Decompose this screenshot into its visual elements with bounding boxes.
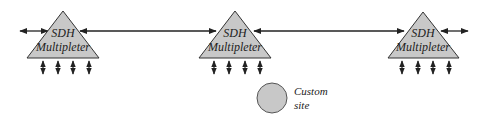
mux-right-label-1: SDH [411,26,436,40]
mux-right: SDH Multipleter [388,12,459,74]
mux-middle: SDH Multipleter [199,11,271,74]
custom-site-label-1: Custom [294,85,328,97]
custom-site-label-2: site [294,99,309,111]
mux-middle-label-1: SDH [223,26,248,40]
mux-left-label-2: Multipleter [35,40,90,54]
tributary-arrows [43,61,89,74]
sdh-network-diagram: SDH Multipleter SDH Multipleter SDH Mult… [0,0,486,121]
mux-left-label-1: SDH [51,26,76,40]
tributary-arrows [214,61,260,74]
mux-middle-label-2: Multipleter [207,40,262,54]
mux-right-label-2: Multipleter [395,40,450,54]
tributary-arrows [402,61,449,74]
mux-left: SDH Multipleter [27,11,99,74]
custom-site: Custom site [257,83,328,113]
